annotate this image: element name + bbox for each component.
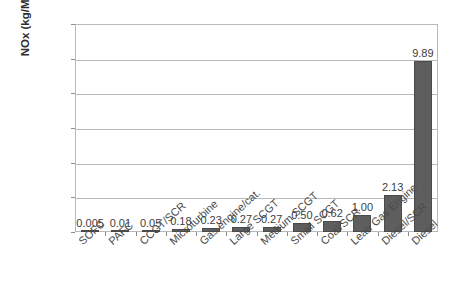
nox-emissions-bar-chart: NOx (kg/MWh) 0.0002.0004.0006.0008.00010… (0, 0, 460, 307)
x-axis-category-labels: SOFCPAFCCCGT/SCRMicroturbineGas engine/c… (0, 232, 460, 307)
bar-slot: 0.005 (75, 24, 105, 232)
bar-slot: 1.00 (347, 24, 377, 232)
bar-slot: 0.05 (136, 24, 166, 232)
y-axis-title: NOx (kg/MWh) (14, 0, 36, 82)
bars-layer: 0.0050.010.050.180.230.270.270.500.621.0… (75, 24, 438, 232)
bar-value-label: 9.89 (412, 47, 433, 59)
bar-slot: 0.01 (105, 24, 135, 232)
